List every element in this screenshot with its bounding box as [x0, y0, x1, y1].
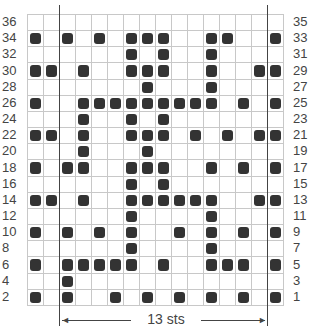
filled-cell: [60, 160, 76, 176]
empty-cell: [236, 63, 252, 79]
filled-cell: [28, 290, 44, 306]
filled-cell: [236, 96, 252, 112]
empty-cell: [76, 274, 92, 290]
filled-cell: [108, 96, 124, 112]
filled-cell: [28, 31, 44, 47]
empty-cell: [188, 15, 204, 31]
filled-cell: [76, 128, 92, 144]
empty-cell: [252, 241, 268, 257]
row-label-left: 28: [2, 79, 24, 95]
empty-cell: [236, 128, 252, 144]
empty-cell: [236, 112, 252, 128]
empty-cell: [188, 112, 204, 128]
filled-cell: [76, 160, 92, 176]
row-label-left: 8: [2, 240, 24, 256]
empty-cell: [28, 15, 44, 31]
empty-cell: [92, 290, 108, 306]
empty-cell: [60, 96, 76, 112]
empty-cell: [220, 47, 236, 63]
filled-cell: [252, 193, 268, 209]
empty-cell: [92, 144, 108, 160]
filled-cell: [156, 63, 172, 79]
filled-cell: [44, 63, 60, 79]
empty-cell: [76, 209, 92, 225]
row-label-right: 33: [293, 30, 313, 46]
filled-cell: [60, 290, 76, 306]
empty-cell: [60, 63, 76, 79]
empty-cell: [236, 144, 252, 160]
filled-cell: [204, 225, 220, 241]
filled-cell: [28, 193, 44, 209]
row-label-left: 36: [2, 14, 24, 30]
filled-cell: [60, 31, 76, 47]
empty-cell: [236, 193, 252, 209]
empty-cell: [252, 15, 268, 31]
empty-cell: [252, 209, 268, 225]
filled-cell: [236, 290, 252, 306]
filled-cell: [204, 80, 220, 96]
empty-cell: [172, 209, 188, 225]
filled-cell: [172, 290, 188, 306]
empty-cell: [60, 112, 76, 128]
empty-cell: [172, 63, 188, 79]
filled-cell: [140, 193, 156, 209]
empty-cell: [44, 112, 60, 128]
filled-cell: [204, 160, 220, 176]
filled-cell: [156, 160, 172, 176]
empty-cell: [172, 112, 188, 128]
row-label-right: 3: [293, 273, 313, 289]
filled-cell: [204, 209, 220, 225]
empty-cell: [156, 241, 172, 257]
filled-cell: [108, 290, 124, 306]
row-label-left: 12: [2, 208, 24, 224]
row-label-left: 4: [2, 273, 24, 289]
empty-cell: [108, 160, 124, 176]
filled-cell: [204, 193, 220, 209]
filled-cell: [28, 160, 44, 176]
row-label-left: 10: [2, 224, 24, 240]
empty-cell: [124, 80, 140, 96]
empty-cell: [140, 209, 156, 225]
empty-cell: [220, 209, 236, 225]
row-label-left: 18: [2, 160, 24, 176]
empty-cell: [60, 80, 76, 96]
empty-cell: [108, 112, 124, 128]
filled-cell: [268, 63, 284, 79]
empty-cell: [44, 15, 60, 31]
filled-cell: [268, 160, 284, 176]
row-label-right: 27: [293, 79, 313, 95]
empty-cell: [28, 177, 44, 193]
empty-cell: [76, 31, 92, 47]
filled-cell: [156, 128, 172, 144]
filled-cell: [92, 257, 108, 273]
row-label-right: 29: [293, 63, 313, 79]
empty-cell: [252, 112, 268, 128]
empty-cell: [172, 128, 188, 144]
empty-cell: [252, 144, 268, 160]
empty-cell: [188, 257, 204, 273]
row-label-right: 5: [293, 257, 313, 273]
empty-cell: [220, 193, 236, 209]
filled-cell: [140, 96, 156, 112]
empty-cell: [268, 274, 284, 290]
arrow-right-icon: ►: [258, 316, 267, 325]
empty-cell: [220, 274, 236, 290]
empty-cell: [156, 144, 172, 160]
empty-cell: [92, 177, 108, 193]
empty-cell: [188, 160, 204, 176]
empty-cell: [28, 112, 44, 128]
empty-cell: [44, 96, 60, 112]
empty-cell: [252, 31, 268, 47]
row-label-right: 35: [293, 14, 313, 30]
filled-cell: [28, 225, 44, 241]
filled-cell: [156, 177, 172, 193]
empty-cell: [44, 290, 60, 306]
empty-cell: [156, 15, 172, 31]
row-label-left: 2: [2, 289, 24, 305]
empty-cell: [268, 144, 284, 160]
filled-cell: [124, 47, 140, 63]
filled-cell: [236, 225, 252, 241]
filled-cell: [60, 257, 76, 273]
empty-cell: [252, 274, 268, 290]
empty-cell: [108, 47, 124, 63]
